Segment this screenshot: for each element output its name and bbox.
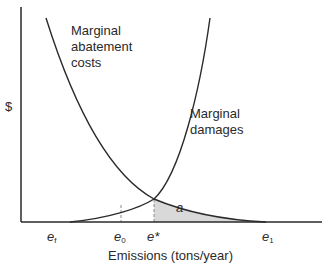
mac-label: Marginal abatement costs xyxy=(71,23,132,71)
md-label-line2: damages xyxy=(190,122,243,138)
mac-label-line3: costs xyxy=(71,55,132,71)
chart-canvas xyxy=(0,0,329,267)
x-axis-label: Emissions (tons/year) xyxy=(108,248,233,264)
area-a-label: a xyxy=(176,200,183,216)
shaded-area-a xyxy=(154,199,266,222)
tick-e1: e1 xyxy=(262,229,274,249)
y-axis-label: $ xyxy=(5,99,12,115)
tick-ef: ef xyxy=(47,229,56,249)
mac-label-line2: abatement xyxy=(71,39,132,55)
mac-label-line1: Marginal xyxy=(71,23,132,39)
tick-e0-sub: 0 xyxy=(121,236,125,245)
md-label-line1: Marginal xyxy=(190,106,243,122)
tick-estar: e* xyxy=(147,229,159,245)
tick-e0: e0 xyxy=(114,229,126,249)
md-label: Marginal damages xyxy=(190,106,243,138)
tick-ef-sub: f xyxy=(54,236,56,245)
tick-e1-sub: 1 xyxy=(269,236,273,245)
